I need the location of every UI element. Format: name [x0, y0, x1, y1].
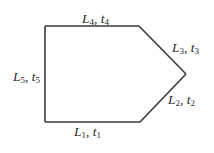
- thickness-subscript: 1: [97, 130, 102, 140]
- separator: ,: [25, 69, 32, 84]
- separator: ,: [184, 40, 191, 55]
- thickness-subscript: 3: [195, 46, 200, 56]
- separator: ,: [86, 124, 93, 139]
- edge-3-label: L3, t3: [172, 41, 199, 55]
- length-symbol: L: [13, 69, 21, 84]
- thickness-subscript: 2: [191, 98, 196, 108]
- edge-1-label: L1, t1: [74, 125, 101, 139]
- length-symbol: L: [172, 40, 180, 55]
- separator: ,: [94, 11, 101, 26]
- length-symbol: L: [74, 124, 82, 139]
- length-symbol: L: [82, 11, 90, 26]
- thickness-subscript: 4: [105, 17, 110, 27]
- edge-5-label: L5, t5: [13, 70, 40, 84]
- edge-2-label: L2, t2: [168, 93, 195, 107]
- edge-4-label: L4, t4: [82, 12, 109, 26]
- length-symbol: L: [168, 92, 176, 107]
- thickness-subscript: 5: [36, 75, 41, 85]
- separator: ,: [180, 92, 187, 107]
